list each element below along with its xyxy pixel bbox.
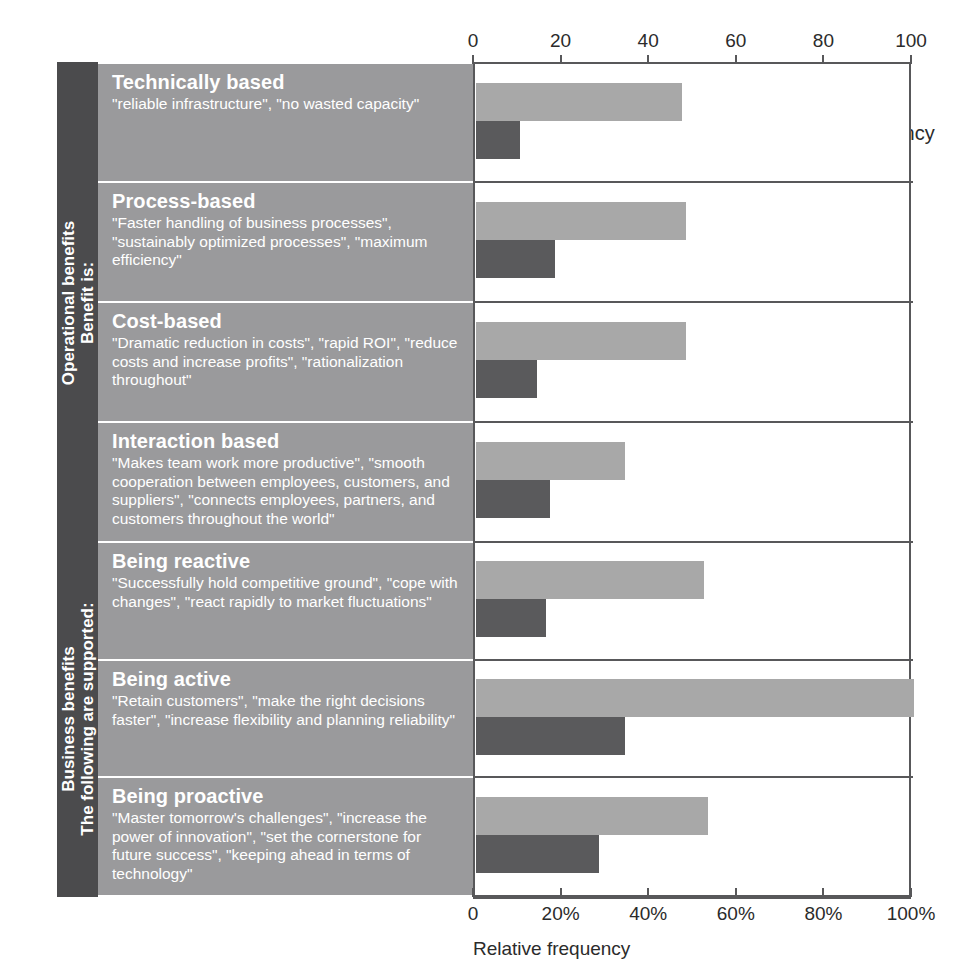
bottom-axis-tick-label: 100%: [887, 903, 936, 925]
row-heading: Being reactive: [112, 549, 461, 573]
chart-root: 020406080100 Intensity Relative frequenc…: [0, 0, 960, 979]
bottom-axis-line: [473, 897, 911, 899]
bottom-axis-tick: [472, 888, 474, 897]
bar-intensity-2: [476, 202, 686, 240]
bar-intensity-1: [476, 83, 682, 121]
bar-relative-frequency-4: [476, 480, 550, 518]
bar-relative-frequency-2: [476, 240, 555, 278]
bottom-axis-tick: [822, 888, 824, 897]
top-axis-tick-label: 80: [813, 30, 834, 52]
bar-intensity-3: [476, 322, 686, 360]
row-quote: "reliable infrastructure", "no wasted ca…: [112, 95, 461, 114]
row-separator: [475, 776, 913, 778]
group-column-business: Business benefitsThe following are suppo…: [57, 541, 98, 897]
row-quote: "Retain customers", "make the right deci…: [112, 692, 461, 729]
row-label-3: Cost-based"Dramatic reduction in costs",…: [98, 303, 473, 421]
bottom-axis-tick-label: 20%: [542, 903, 580, 925]
bar-relative-frequency-3: [476, 360, 537, 398]
bottom-axis-tick: [560, 888, 562, 897]
row-label-6: Being active"Retain customers", "make th…: [98, 661, 473, 776]
row-heading: Cost-based: [112, 309, 461, 333]
bar-intensity-5: [476, 561, 704, 599]
row-quote: "Dramatic reduction in costs", "rapid RO…: [112, 334, 461, 390]
top-axis: 020406080100: [473, 34, 911, 64]
top-axis-tick-label: 100: [895, 30, 927, 52]
row-label-5: Being reactive"Successfully hold competi…: [98, 543, 473, 659]
row-label-1: Technically based"reliable infrastructur…: [98, 64, 473, 181]
row-quote: "Master tomorrow's challenges", "increas…: [112, 809, 461, 883]
bottom-axis-tick-label: 60%: [717, 903, 755, 925]
bar-intensity-6: [476, 679, 914, 717]
top-axis-tick-label: 20: [550, 30, 571, 52]
row-quote: "Makes team work more productive", "smoo…: [112, 454, 461, 528]
plot-area: [473, 64, 911, 897]
row-label-4: Interaction based"Makes team work more p…: [98, 423, 473, 541]
bar-intensity-4: [476, 442, 625, 480]
bar-relative-frequency-5: [476, 599, 546, 637]
row-separator: [475, 421, 913, 423]
bar-relative-frequency-6: [476, 717, 625, 755]
group-label-line2: Benefit is:: [78, 66, 97, 539]
row-heading: Technically based: [112, 70, 461, 94]
x-axis-title: Relative frequency: [473, 938, 630, 960]
bar-relative-frequency-7: [476, 835, 599, 873]
row-separator: [475, 541, 913, 543]
group-label-line1: Business benefits: [59, 545, 78, 893]
row-separator: [475, 301, 913, 303]
row-separator: [475, 181, 913, 183]
row-label-7: Being proactive"Master tomorrow's challe…: [98, 778, 473, 895]
bar-relative-frequency-1: [476, 121, 520, 159]
group-label-line2: The following are supported:: [78, 545, 97, 893]
row-quote: "Successfully hold competitive ground", …: [112, 574, 461, 611]
group-column-operational: Operational benefitsBenefit is:: [57, 62, 98, 543]
bar-intensity-7: [476, 797, 708, 835]
bottom-axis-tick: [910, 888, 912, 897]
top-axis-tick-label: 40: [638, 30, 659, 52]
top-axis-tick-label: 0: [468, 30, 479, 52]
row-heading: Interaction based: [112, 429, 461, 453]
bottom-axis-tick-label: 0: [468, 903, 479, 925]
bottom-axis-tick: [735, 888, 737, 897]
row-heading: Being proactive: [112, 784, 461, 808]
row-separator: [475, 659, 913, 661]
group-column-label: Business benefitsThe following are suppo…: [59, 545, 97, 893]
row-heading: Being active: [112, 667, 461, 691]
bottom-axis-tick: [647, 888, 649, 897]
row-quote: "Faster handling of business processes",…: [112, 214, 461, 270]
row-heading: Process-based: [112, 189, 461, 213]
bottom-axis-tick-label: 80%: [804, 903, 842, 925]
group-label-line1: Operational benefits: [59, 66, 78, 539]
top-axis-tick-label: 60: [725, 30, 746, 52]
bottom-axis-tick-label: 40%: [629, 903, 667, 925]
row-label-2: Process-based"Faster handling of busines…: [98, 183, 473, 301]
group-column-label: Operational benefitsBenefit is:: [59, 66, 97, 539]
